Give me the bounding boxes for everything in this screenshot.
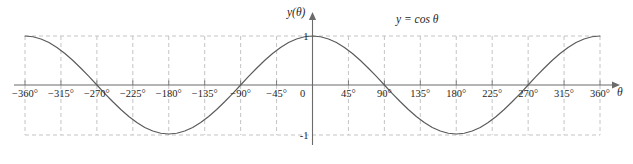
x-tick-label: −315° [48, 88, 74, 99]
x-tick-label: −45° [266, 88, 287, 99]
x-tick-label: −270° [84, 88, 110, 99]
x-tick-label: 45° [341, 88, 356, 99]
x-tick-label: 225° [482, 88, 502, 99]
equation-annotation: y = cos θ [396, 13, 438, 25]
x-tick-label: 135° [410, 88, 430, 99]
x-tick-label: 90° [377, 88, 392, 99]
chart-canvas [0, 0, 633, 164]
origin-label: 0 [300, 88, 305, 99]
y-axis-title: y(θ) [287, 6, 305, 18]
y-axis-arrow [309, 12, 316, 20]
x-tick-label: 315° [554, 88, 574, 99]
x-tick-label: 270° [518, 88, 538, 99]
x-tick-label: −135° [192, 88, 218, 99]
y-tick-label: 1 [303, 31, 308, 42]
axes-group [14, 12, 620, 145]
x-tick-label: −180° [156, 88, 182, 99]
cosine-graph-figure: −360°−315°−270°−225°−180°−135°−90°−45°45… [0, 0, 633, 164]
x-tick-label: −360° [12, 88, 38, 99]
x-tick-label: 180° [446, 88, 466, 99]
x-tick-label: −90° [230, 88, 251, 99]
x-axis-title: θ [617, 86, 623, 98]
y-tick-label: -1 [300, 130, 309, 141]
x-tick-label: −225° [120, 88, 146, 99]
x-tick-label: 360° [590, 88, 610, 99]
